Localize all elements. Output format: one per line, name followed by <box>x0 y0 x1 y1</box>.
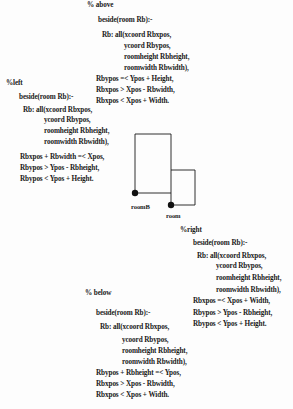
comment-below: % below <box>85 289 111 298</box>
clause-head-right: beside(room Rb):- <box>193 239 247 248</box>
label-roomB: roomB <box>131 202 150 211</box>
clause-line: ycoord Rbypos, <box>216 262 263 271</box>
room-rectangle <box>171 170 195 205</box>
clause-line: Rb: all(xcoord Rbxpos, <box>100 323 169 332</box>
clause-line: Rbxpos < Xpos + Width. <box>96 391 169 400</box>
clause-line: Rbxpos > Xpos - Rbwidth, <box>96 380 175 389</box>
clause-line: roomheight Rbheight, <box>122 347 187 356</box>
clause-head-below: beside(room Rb):- <box>96 309 150 318</box>
clause-line: roomwidth Rbwidth), <box>216 286 281 295</box>
comment-right: %right <box>180 226 202 235</box>
clause-line: Rbypos > Ypos - Rbheight, <box>193 309 272 318</box>
clause-line: roomwidth Rbwidth), <box>122 358 187 367</box>
room-origin-dot <box>168 202 174 208</box>
clause-line: roomheight Rbheight, <box>216 274 281 283</box>
clause-line: Rbxpos =< Xpos + Width, <box>193 297 270 306</box>
clause-line: Rb: all(xcoord Rbxpos, <box>197 252 266 261</box>
room-b-rectangle <box>135 134 171 205</box>
clause-line: Rbypos < Ypos + Height. <box>193 320 266 329</box>
label-room: room <box>166 211 181 220</box>
room-b-origin-dot <box>132 190 138 196</box>
clause-line: Rbypos + Rbheight =< Ypos, <box>96 369 181 378</box>
figure-page: % above beside(room Rb):- Rb: all(xcoord… <box>0 0 293 409</box>
clause-line: ycoord Rbypos, <box>122 336 169 345</box>
